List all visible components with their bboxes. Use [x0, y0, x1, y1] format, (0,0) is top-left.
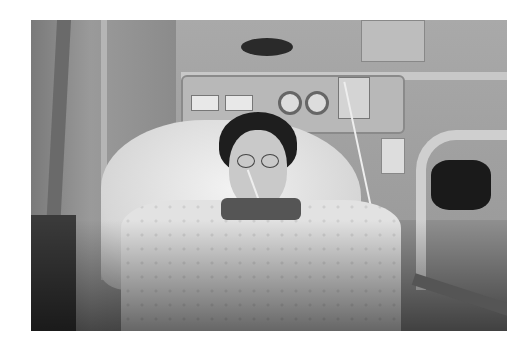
resuscitation-bag: [241, 38, 293, 56]
glasses-lens: [261, 154, 279, 168]
dark-cloth: [431, 160, 491, 210]
glasses-lens: [237, 154, 255, 168]
iv-bag: [381, 138, 405, 174]
power-outlet: [225, 95, 253, 111]
patient-face: [229, 130, 287, 208]
lower-shadow: [31, 220, 507, 331]
gown-collar: [221, 198, 301, 220]
gauge-icon: [305, 91, 329, 115]
wall-monitor: [361, 20, 425, 62]
gauge-icon: [278, 91, 302, 115]
hospital-photo: [31, 20, 507, 331]
power-outlet: [191, 95, 219, 111]
